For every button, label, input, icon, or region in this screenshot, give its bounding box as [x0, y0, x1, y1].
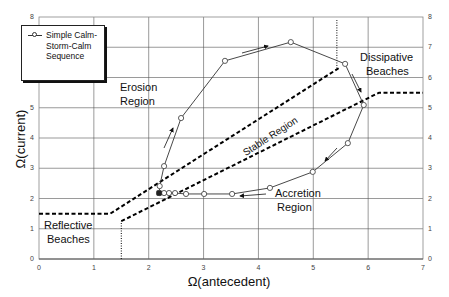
erosion-label-1: Erosion: [120, 81, 157, 93]
reflective-label-1: Reflective: [44, 219, 92, 231]
svg-text:2: 2: [428, 195, 432, 202]
y-axis-label: Ω(current): [13, 110, 28, 169]
svg-text:2: 2: [30, 195, 34, 202]
svg-text:3: 3: [428, 164, 432, 171]
svg-text:3: 3: [202, 264, 206, 271]
svg-text:1: 1: [30, 225, 34, 232]
svg-text:4: 4: [256, 264, 260, 271]
svg-text:3: 3: [30, 164, 34, 171]
svg-text:6: 6: [366, 264, 370, 271]
legend-marker-icon: [28, 35, 42, 36]
svg-text:5: 5: [311, 264, 315, 271]
legend: Simple Calm-Storm-Calm Sequence: [21, 25, 105, 81]
accretion-label-2: Region: [277, 201, 312, 213]
legend-label: Simple Calm-Storm-Calm Sequence: [46, 30, 104, 62]
svg-text:7: 7: [428, 43, 432, 50]
svg-text:0: 0: [30, 255, 34, 262]
svg-text:8: 8: [428, 13, 432, 20]
svg-text:5: 5: [428, 104, 432, 111]
dissipative-label-1: Dissipative: [360, 51, 413, 63]
x-axis-label: Ω(antecedent): [188, 274, 271, 289]
svg-text:0: 0: [428, 255, 432, 262]
svg-text:5: 5: [30, 104, 34, 111]
direction-arrows: [164, 46, 361, 196]
svg-text:4: 4: [428, 134, 432, 141]
svg-text:7: 7: [421, 264, 425, 271]
svg-text:1: 1: [428, 225, 432, 232]
erosion-label-2: Region: [120, 95, 155, 107]
accretion-label-1: Accretion: [275, 187, 321, 199]
reflective-label-2: Beaches: [47, 233, 90, 245]
dissipative-label-2: Beaches: [366, 65, 409, 77]
svg-text:8: 8: [30, 13, 34, 20]
svg-text:1: 1: [92, 264, 96, 271]
svg-text:2: 2: [147, 264, 151, 271]
svg-text:6: 6: [428, 74, 432, 81]
svg-text:0: 0: [37, 264, 41, 271]
svg-text:4: 4: [30, 134, 34, 141]
